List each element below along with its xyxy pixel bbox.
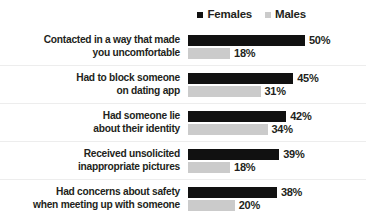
category-label: Received unsolicited inappropriate pictu…	[0, 148, 188, 173]
bar-value-females: 42%	[290, 111, 311, 122]
legend-square-icon-males	[265, 12, 271, 18]
category-label: Had concerns about safety when meeting u…	[0, 186, 188, 211]
category-label-line2: about their identity	[0, 123, 180, 135]
category-label-line2: when meeting up with someone	[0, 199, 180, 211]
bar-males	[188, 200, 235, 211]
legend-label-males: Males	[275, 9, 306, 21]
bar-line-males: 18%	[188, 48, 255, 59]
bar-line-females: 38%	[188, 187, 302, 198]
bar-males	[188, 162, 230, 173]
legend-square-icon-females	[197, 12, 203, 18]
chart-rows: Contacted in a way that made you uncomfo…	[0, 28, 366, 217]
bar-group: 39% 18%	[188, 146, 366, 176]
category-label-line1: Had concerns about safety	[56, 186, 180, 197]
bar-line-males: 20%	[188, 200, 260, 211]
bar-line-males: 18%	[188, 162, 255, 173]
chart-row: Had to block someone on dating app 45% 3…	[0, 66, 366, 104]
category-label: Had someone lie about their identity	[0, 110, 188, 135]
bar-value-males: 18%	[234, 162, 255, 173]
bar-group: 42% 34%	[188, 108, 366, 138]
bar-value-males: 18%	[234, 48, 255, 59]
legend-item-males: Males	[265, 9, 306, 21]
bar-line-males: 34%	[188, 124, 293, 135]
bar-value-females: 45%	[297, 73, 318, 84]
bar-value-females: 50%	[309, 35, 330, 46]
bar-line-females: 50%	[188, 35, 330, 46]
bar-females	[188, 35, 305, 46]
category-label: Contacted in a way that made you uncomfo…	[0, 34, 188, 59]
bar-value-males: 34%	[272, 124, 293, 135]
bar-line-females: 45%	[188, 73, 318, 84]
bar-females	[188, 187, 277, 198]
category-label-line2: inappropriate pictures	[0, 161, 180, 173]
bar-females	[188, 73, 293, 84]
bar-males	[188, 124, 268, 135]
bar-value-females: 38%	[281, 187, 302, 198]
bar-value-males: 20%	[239, 200, 260, 211]
bar-line-females: 39%	[188, 149, 304, 160]
legend-item-females: Females	[197, 9, 252, 21]
bar-group: 45% 31%	[188, 70, 366, 100]
chart-row: Received unsolicited inappropriate pictu…	[0, 142, 366, 180]
bar-group: 38% 20%	[188, 184, 366, 214]
bar-males	[188, 48, 230, 59]
bar-chart: Females Males Contacted in a way that ma…	[0, 0, 366, 224]
legend-label-females: Females	[207, 9, 252, 21]
chart-row: Had someone lie about their identity 42%…	[0, 104, 366, 142]
category-label-line1: Had to block someone	[76, 72, 180, 83]
category-label-line1: Had someone lie	[103, 110, 180, 121]
bar-value-females: 39%	[283, 149, 304, 160]
chart-row: Had concerns about safety when meeting u…	[0, 180, 366, 217]
category-label-line2: you uncomfortable	[0, 47, 180, 59]
bar-females	[188, 149, 279, 160]
chart-legend: Females Males	[0, 6, 366, 24]
category-label-line1: Contacted in a way that made	[44, 34, 180, 45]
bar-value-males: 31%	[265, 86, 286, 97]
bar-line-females: 42%	[188, 111, 311, 122]
bar-line-males: 31%	[188, 86, 286, 97]
chart-row: Contacted in a way that made you uncomfo…	[0, 28, 366, 66]
category-label-line2: on dating app	[0, 85, 180, 97]
bar-females	[188, 111, 286, 122]
category-label: Had to block someone on dating app	[0, 72, 188, 97]
bar-group: 50% 18%	[188, 32, 366, 62]
bar-males	[188, 86, 261, 97]
category-label-line1: Received unsolicited	[84, 148, 180, 159]
